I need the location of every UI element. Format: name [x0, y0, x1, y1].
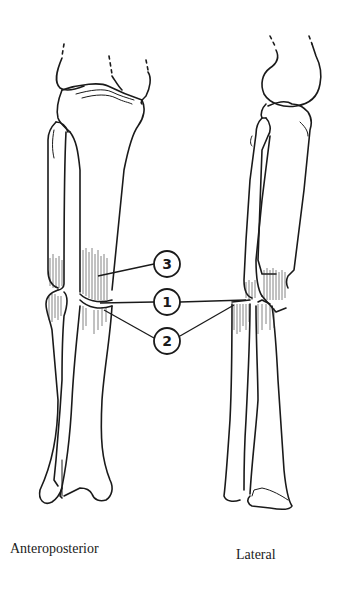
ap-tibia-hatch-lower [83, 306, 106, 334]
leader-1-left [100, 302, 154, 303]
callout-number-3: 3 [162, 256, 172, 272]
leader-3 [98, 264, 154, 276]
lateral-tibia [248, 102, 311, 509]
ap-tibia [57, 90, 144, 501]
ap-tibia-hatch-upper [83, 248, 107, 300]
callout-number-1: 1 [162, 294, 172, 310]
lateral-fibula [224, 118, 270, 501]
anteroposterior-view [40, 44, 151, 503]
callout-1: 1 [154, 289, 180, 315]
leader-2-right [180, 305, 234, 336]
ap-fibula [40, 122, 68, 503]
ap-fibula-hatch [49, 254, 62, 322]
lateral-femur [262, 36, 321, 107]
caption-anteroposterior: Anteroposterior [10, 541, 99, 557]
callout-number-2: 2 [162, 333, 172, 349]
lateral-tibia-hatch-upper [264, 268, 285, 300]
leader-2-left [104, 310, 154, 338]
caption-lateral: Lateral [236, 547, 276, 563]
callout-2: 2 [154, 328, 180, 354]
bone-diagram: 3 1 2 [0, 0, 338, 589]
lateral-view [224, 36, 321, 509]
callout-3: 3 [154, 251, 180, 277]
